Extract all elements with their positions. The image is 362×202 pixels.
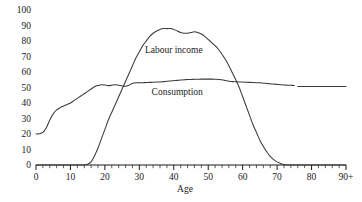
consumption-label: Consumption	[152, 87, 203, 97]
x-tick-label-0: 0	[34, 172, 39, 182]
x-tick-label-30: 30	[135, 172, 145, 182]
y-tick-label-100: 100	[17, 5, 32, 15]
life-cycle-deficit-chart: 100 90 80 70 60 50 40 30 20 10 0 0102030…	[0, 0, 362, 202]
x-tick-label-40: 40	[169, 172, 179, 182]
x-tick-label-20: 20	[100, 172, 110, 182]
y-tick-label-70: 70	[22, 52, 32, 62]
x-axis-title: Age	[177, 184, 193, 194]
x-tick-label-80: 80	[307, 172, 317, 182]
y-tick-label-90: 90	[22, 21, 32, 31]
x-tick-label-10: 10	[66, 172, 76, 182]
y-tick-label-30: 30	[22, 114, 32, 124]
x-tick-label-50: 50	[203, 172, 213, 182]
y-tick-label-80: 80	[22, 36, 32, 46]
y-tick-label-40: 40	[22, 98, 32, 108]
x-tick-label-90+: 90+	[339, 172, 354, 182]
x-axis-ticks	[36, 165, 346, 170]
chart-container: 100 90 80 70 60 50 40 30 20 10 0 0102030…	[0, 0, 362, 202]
x-tick-label-70: 70	[272, 172, 282, 182]
labour-income-label: Labour income	[145, 45, 203, 55]
series-annotations: Labour income Consumption	[145, 45, 203, 97]
y-tick-label-50: 50	[22, 83, 32, 93]
y-tick-label-0: 0	[26, 160, 31, 170]
x-tick-label-60: 60	[238, 172, 248, 182]
y-tick-label-60: 60	[22, 67, 32, 77]
y-tick-label-10: 10	[22, 145, 32, 155]
x-axis-tick-labels: 0102030405060708090+	[34, 172, 354, 182]
y-axis-tick-labels: 100 90 80 70 60 50 40 30 20 10 0	[17, 5, 32, 170]
y-tick-label-20: 20	[22, 129, 32, 139]
